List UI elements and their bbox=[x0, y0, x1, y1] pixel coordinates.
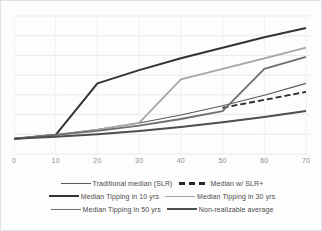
x-tick-label-60: 60 bbox=[260, 157, 268, 164]
legend-item-4[interactable]: Median Tipping in 50 yrs bbox=[51, 206, 161, 213]
legend-swatch-1 bbox=[179, 182, 209, 185]
legend-row-1: Median Tipping in 10 yrsMedian Tipping i… bbox=[14, 190, 310, 202]
x-tick-label-10: 10 bbox=[52, 157, 60, 164]
x-tick-label-50: 50 bbox=[218, 157, 226, 164]
legend-label-0: Traditional median (SLR) bbox=[93, 180, 173, 187]
x-axis-ticks: 010203040506070 bbox=[14, 157, 310, 171]
legend-item-1[interactable]: Median w/ SLR+ bbox=[179, 180, 264, 187]
legend-label-2: Median Tipping in 10 yrs bbox=[81, 193, 159, 200]
legend-row-0: Traditional median (SLR)Median w/ SLR+ bbox=[14, 177, 310, 189]
legend-swatch-3 bbox=[165, 196, 195, 197]
series-line-3 bbox=[14, 48, 306, 139]
chart-frame: 010203040506070 Traditional median (SLR)… bbox=[0, 0, 322, 231]
legend-item-5[interactable]: Non-realizable average bbox=[167, 206, 274, 213]
legend-row-2: Median Tipping in 50 yrsNon-realizable a… bbox=[14, 203, 310, 215]
x-tick-label-30: 30 bbox=[135, 157, 143, 164]
legend-item-0[interactable]: Traditional median (SLR) bbox=[61, 180, 173, 187]
legend-label-1: Median w/ SLR+ bbox=[211, 180, 264, 187]
legend-item-3[interactable]: Median Tipping in 30 yrs bbox=[165, 193, 275, 200]
series-line-0 bbox=[14, 83, 306, 138]
series-line-4 bbox=[14, 57, 306, 139]
legend-label-4: Median Tipping in 50 yrs bbox=[83, 206, 161, 213]
x-tick-label-70: 70 bbox=[302, 157, 310, 164]
x-tick-label-0: 0 bbox=[12, 157, 16, 164]
series-lines bbox=[14, 28, 306, 139]
x-tick-label-20: 20 bbox=[93, 157, 101, 164]
legend-label-5: Non-realizable average bbox=[199, 206, 274, 213]
plot-area bbox=[14, 14, 310, 156]
legend-item-2[interactable]: Median Tipping in 10 yrs bbox=[49, 193, 159, 200]
line-chart-svg bbox=[14, 14, 310, 156]
legend-label-3: Median Tipping in 30 yrs bbox=[197, 193, 275, 200]
legend-swatch-0 bbox=[61, 183, 91, 184]
x-tick-label-40: 40 bbox=[177, 157, 185, 164]
legend-swatch-5 bbox=[167, 208, 197, 210]
legend-swatch-2 bbox=[49, 195, 79, 197]
legend-swatch-4 bbox=[51, 209, 81, 210]
chart-legend: Traditional median (SLR)Median w/ SLR+Me… bbox=[14, 177, 310, 219]
